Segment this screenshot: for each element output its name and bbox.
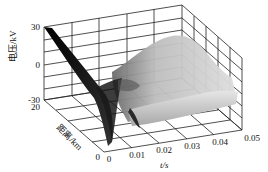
- t-tick-0.01: 0.01: [129, 150, 145, 160]
- z-axis-ticks: 30 0 -30: [28, 22, 41, 105]
- distance-tick-0: 0: [96, 152, 101, 162]
- z-axis-label: 电压/kV: [7, 30, 18, 62]
- distance-axis-label: 距离/km: [55, 122, 85, 152]
- z-tick-30: 30: [31, 22, 41, 32]
- t-tick-0.05: 0.05: [244, 133, 260, 143]
- time-axis-label: t/s: [160, 160, 169, 170]
- time-axis-ticks: 0 0.01 0.02 0.03 0.04 0.05: [107, 133, 261, 164]
- t-tick-0: 0: [107, 154, 112, 164]
- z-tick-0: 0: [36, 60, 41, 70]
- t-tick-0.02: 0.02: [156, 145, 172, 155]
- t-tick-0.04: 0.04: [212, 137, 228, 147]
- distance-tick-20: 20: [31, 102, 41, 112]
- t-tick-0.03: 0.03: [184, 141, 200, 151]
- surface-plot: 30 0 -30 20 0 0 0.01 0.02 0.03 0.04 0.05…: [0, 0, 268, 172]
